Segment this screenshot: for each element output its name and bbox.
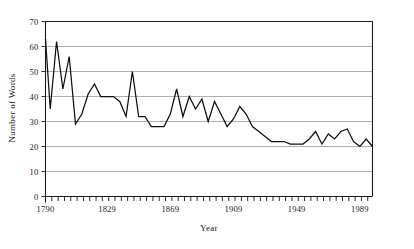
y-tick-label: 60 — [30, 42, 39, 52]
y-tick-label: 0 — [34, 192, 38, 202]
y-tick-label: 20 — [30, 142, 39, 152]
chart-figure: 010203040506070 179018291869190919491989… — [0, 0, 414, 249]
x-tick-label: 1829 — [98, 204, 116, 214]
x-tick-label: 1869 — [161, 204, 179, 214]
x-tick-label: 1989 — [351, 204, 369, 214]
y-tick-label: 10 — [30, 167, 39, 177]
y-tick-label: 50 — [30, 67, 39, 77]
x-tick-label: 1790 — [37, 204, 55, 214]
y-tick-label: 40 — [30, 92, 39, 102]
x-axis-title: Year — [200, 223, 218, 233]
y-tick-label: 30 — [30, 117, 39, 127]
y-tick-label: 70 — [30, 17, 39, 27]
x-tick-label: 1909 — [225, 204, 243, 214]
x-tick-label: 1949 — [288, 204, 306, 214]
line-chart: 010203040506070 179018291869190919491989… — [0, 0, 414, 249]
y-axis-title: Number of Words — [7, 73, 17, 142]
